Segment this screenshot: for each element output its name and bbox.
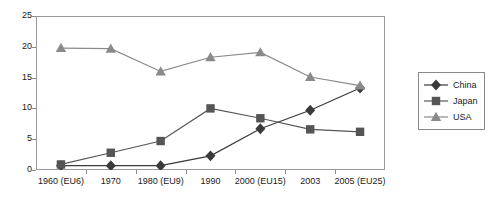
data-point-japan (356, 128, 364, 136)
data-point-china (305, 105, 315, 116)
x-tick-mark (186, 170, 187, 174)
legend-marker-diamond-icon (423, 79, 449, 91)
y-tick-mark (32, 139, 36, 140)
series-china (56, 83, 365, 170)
y-tick-label: 10 (4, 103, 32, 112)
legend-marker-square-icon (423, 95, 449, 107)
x-tick-mark (335, 170, 336, 174)
data-point-japan (107, 149, 115, 157)
data-point-japan (306, 125, 314, 133)
x-tick-mark (86, 170, 87, 174)
y-tick-label: 15 (4, 73, 32, 82)
data-point-usa (305, 72, 315, 81)
x-tick-label: 2003 (300, 176, 320, 186)
x-tick-label: 2000 (EU15) (235, 176, 286, 186)
data-point-usa (56, 43, 66, 52)
x-tick-mark (285, 170, 286, 174)
legend-marker-glyph-square-icon (432, 97, 440, 105)
x-tick-label: 1960 (EU6) (38, 176, 84, 186)
legend-label: USA (453, 112, 472, 122)
y-tick-mark (32, 47, 36, 48)
x-tick-label: 1980 (EU9) (138, 176, 184, 186)
data-point-china (156, 160, 166, 170)
x-tick-mark (136, 170, 137, 174)
data-point-china (255, 123, 265, 134)
y-tick-label: 25 (4, 11, 32, 20)
y-tick-label: 20 (4, 42, 32, 51)
x-tick-mark (235, 170, 236, 174)
y-tick-mark (32, 16, 36, 17)
legend-label: Japan (453, 96, 478, 106)
data-point-china (206, 150, 216, 161)
chart-legend: ChinaJapanUSA (418, 72, 485, 130)
y-axis: 0510152025 (0, 0, 32, 199)
data-point-japan (156, 137, 164, 145)
data-point-japan (57, 160, 65, 168)
legend-marker-glyph-diamond-icon (431, 80, 441, 91)
y-tick-mark (32, 78, 36, 79)
x-tick-label: 1990 (200, 176, 220, 186)
y-tick-label: 5 (4, 134, 32, 143)
legend-item-china[interactable]: China (423, 77, 478, 93)
legend-marker-triangle-icon (423, 111, 449, 123)
legend-item-japan[interactable]: Japan (423, 93, 478, 109)
x-tick-label: 1970 (101, 176, 121, 186)
chart-container: 0510152025 1960 (EU6)19701980 (EU9)19902… (0, 0, 499, 199)
y-tick-label: 0 (4, 165, 32, 174)
legend-label: China (453, 80, 477, 90)
data-point-usa (255, 47, 265, 56)
legend-item-usa[interactable]: USA (423, 109, 478, 125)
series-usa (56, 43, 366, 90)
x-axis: 1960 (EU6)19701980 (EU9)19902000 (EU15)2… (36, 176, 385, 192)
data-point-china (106, 160, 116, 170)
data-point-japan (256, 114, 264, 122)
x-tick-label: 2005 (EU25) (335, 176, 386, 186)
plot-series-layer (36, 16, 385, 170)
y-tick-mark (32, 108, 36, 109)
y-tick-mark (32, 170, 36, 171)
data-point-japan (206, 104, 214, 112)
